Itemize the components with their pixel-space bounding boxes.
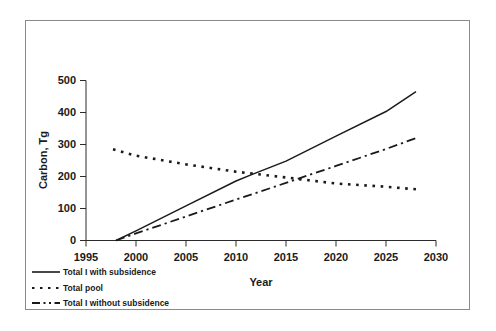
x-tick-label-2025: 2025	[374, 251, 398, 263]
legend-label-0: Total I with subsidence	[63, 267, 156, 277]
line-chart: 500 400 300 200 100 0 1995 2000 2005 201…	[0, 0, 496, 331]
x-tick-label-2000: 2000	[124, 251, 148, 263]
y-axis-title: Carbon, Tg	[37, 131, 49, 189]
x-tick-label-1995: 1995	[74, 251, 98, 263]
y-tick-label-200: 200	[58, 170, 76, 182]
y-tick-label-500: 500	[58, 74, 76, 86]
y-tick-label-0: 0	[70, 234, 76, 246]
series-line-total-i-with-subsidence	[116, 92, 416, 241]
x-axis-title: Year	[249, 276, 273, 288]
y-tick-label-100: 100	[58, 202, 76, 214]
legend-label-1: Total pool	[63, 283, 103, 293]
x-tick-label-2030: 2030	[424, 251, 448, 263]
x-tick-marks	[86, 241, 436, 247]
x-tick-label-2020: 2020	[324, 251, 348, 263]
y-tick-label-300: 300	[58, 138, 76, 150]
x-tick-label-2015: 2015	[274, 251, 298, 263]
x-tick-label-2005: 2005	[174, 251, 198, 263]
series-line-total-i-without-subsidence	[116, 138, 416, 240]
x-tick-label-2010: 2010	[224, 251, 248, 263]
legend: Total I with subsidence Total pool Total…	[32, 267, 169, 308]
legend-label-2: Total I without subsidence	[63, 298, 169, 308]
y-tick-label-400: 400	[58, 106, 76, 118]
figure-container: 500 400 300 200 100 0 1995 2000 2005 201…	[0, 0, 496, 331]
series-group	[113, 92, 416, 241]
y-tick-marks	[80, 81, 86, 241]
